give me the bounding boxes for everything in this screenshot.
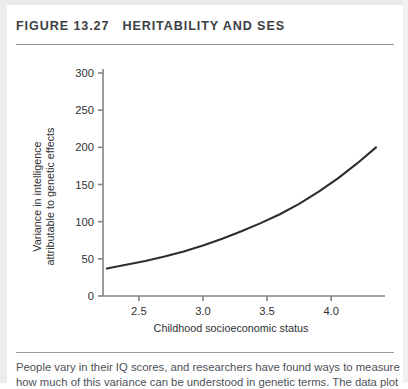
chart-plot-area: 0501001502002503002.53.03.54.0Childhood … [0,55,408,340]
data-line-genetic-variance [107,147,376,268]
x-tick-label: 3.5 [259,305,275,317]
caption-line-1: People vary in their IQ scores, and rese… [16,360,398,375]
y-axis-label: Variance in intelligence [31,141,43,251]
x-tick-label: 2.5 [131,305,147,317]
y-tick-label: 100 [75,216,94,228]
figure-title-row: FIGURE 13.27HERITABILITY AND SES [16,19,394,33]
x-axis-label: Childhood socioeconomic status [154,322,309,334]
heritability-line-chart: 0501001502002503002.53.03.54.0Childhood … [0,55,408,340]
caption-line-2: how much of this variance can be underst… [16,375,398,389]
figure-number: FIGURE 13.27 [16,19,109,33]
y-tick-label: 150 [75,179,94,191]
page-edge-top [0,0,408,5]
y-tick-label: 200 [75,141,94,153]
figure-header: FIGURE 13.27HERITABILITY AND SES [16,19,394,33]
y-tick-label: 250 [75,104,94,116]
y-tick-label: 0 [88,290,94,302]
x-tick-label: 4.0 [323,305,339,317]
x-tick-label: 3.0 [195,305,211,317]
figure-title: HERITABILITY AND SES [122,19,285,33]
caption-divider [16,352,394,353]
y-tick-label: 50 [82,253,94,265]
y-tick-label: 300 [75,67,94,79]
figure-caption: People vary in their IQ scores, and rese… [16,360,398,389]
y-axis-label: attributable to genetic effects [44,127,56,265]
header-divider [16,44,394,45]
